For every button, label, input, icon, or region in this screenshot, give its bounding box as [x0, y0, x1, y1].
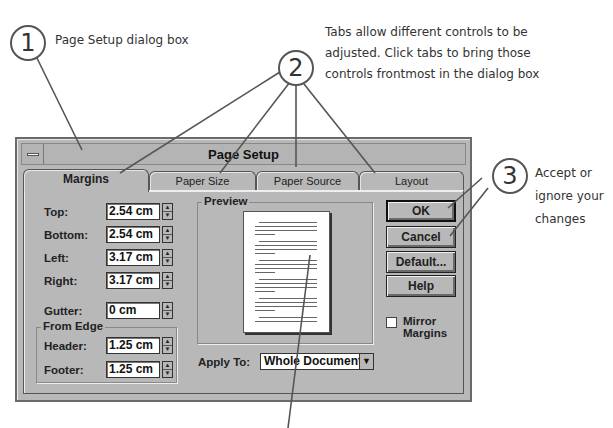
- page-setup-dialog: Page Setup Margins Paper Size Paper Sour…: [15, 137, 472, 402]
- spinner-down-icon[interactable]: ▼: [163, 345, 172, 353]
- callout-1-marker: 1: [10, 25, 46, 61]
- callout-1-text: Page Setup dialog box: [55, 30, 189, 51]
- apply-to-label: Apply To:: [198, 356, 250, 368]
- tab-margins-label: Margins: [63, 172, 109, 186]
- system-menu-button[interactable]: [22, 144, 44, 164]
- callout-2-marker: 2: [278, 50, 314, 86]
- from-edge-label: From Edge: [41, 320, 105, 332]
- dialog-title: Page Setup: [22, 147, 465, 162]
- tab-paper-size[interactable]: Paper Size: [149, 171, 256, 191]
- spinner-down-icon[interactable]: ▼: [163, 310, 172, 318]
- callout-2-number: 2: [288, 54, 303, 82]
- spinner-down-icon[interactable]: ▼: [163, 280, 172, 288]
- bottom-margin-input[interactable]: 2.54 cm: [106, 226, 160, 243]
- default-button[interactable]: Default...: [386, 251, 456, 273]
- spinner-up-icon[interactable]: ▲: [163, 338, 172, 345]
- gutter-input[interactable]: 0 cm: [106, 302, 160, 319]
- spinner-up-icon[interactable]: ▲: [163, 303, 172, 310]
- gutter-spinner[interactable]: ▲ ▼: [162, 302, 173, 319]
- right-margin-input[interactable]: 3.17 cm: [106, 272, 160, 289]
- tab-paper-source[interactable]: Paper Source: [256, 171, 359, 191]
- tab-margins[interactable]: Margins: [23, 169, 149, 192]
- spinner-down-icon[interactable]: ▼: [163, 369, 172, 377]
- apply-to-value: Whole Document: [264, 354, 362, 368]
- cancel-button[interactable]: Cancel: [386, 226, 456, 248]
- callout-3-marker: 3: [492, 158, 528, 194]
- tab-layout-label: Layout: [395, 175, 428, 187]
- right-margin-spinner[interactable]: ▲ ▼: [162, 272, 173, 289]
- callout-3-line-2: ignore your: [535, 185, 604, 208]
- footer-input[interactable]: 1.25 cm: [106, 361, 160, 378]
- bottom-margin-spinner[interactable]: ▲ ▼: [162, 226, 173, 243]
- apply-to-dropdown[interactable]: Whole Document ▼: [260, 353, 374, 370]
- help-button[interactable]: Help: [386, 275, 456, 297]
- bottom-label: Bottom:: [44, 229, 88, 241]
- mirror-margins-label-line-2: Margins: [403, 327, 447, 339]
- callout-2-text: Tabs allow different controls to be adju…: [325, 22, 539, 85]
- callout-2-line-2: adjusted. Click tabs to bring those: [325, 43, 539, 64]
- ok-button[interactable]: OK: [386, 200, 456, 222]
- tab-strip: Margins Paper Size Paper Source Layout: [23, 169, 464, 191]
- mirror-margins-label[interactable]: Mirror Margins: [403, 315, 447, 339]
- callout-1-number: 1: [20, 29, 35, 57]
- spinner-up-icon[interactable]: ▲: [163, 273, 172, 280]
- spinner-up-icon[interactable]: ▲: [163, 204, 172, 211]
- mirror-margins-checkbox[interactable]: [386, 317, 397, 328]
- left-margin-spinner[interactable]: ▲ ▼: [162, 249, 173, 266]
- top-label: Top:: [44, 206, 68, 218]
- top-margin-spinner[interactable]: ▲ ▼: [162, 203, 173, 220]
- spinner-down-icon[interactable]: ▼: [163, 234, 172, 242]
- left-margin-input[interactable]: 3.17 cm: [106, 249, 160, 266]
- spinner-up-icon[interactable]: ▲: [163, 227, 172, 234]
- left-label: Left:: [44, 252, 69, 264]
- callout-3-number: 3: [502, 162, 517, 190]
- callout-3-text: Accept or ignore your changes: [535, 162, 604, 231]
- tab-paper-size-label: Paper Size: [176, 175, 230, 187]
- mirror-margins-label-line-1: Mirror: [403, 315, 447, 327]
- callout-2-line-1: Tabs allow different controls to be: [325, 22, 539, 43]
- callout-3-line-1: Accept or: [535, 162, 604, 185]
- page-preview-thumbnail: [243, 211, 330, 333]
- spinner-down-icon[interactable]: ▼: [163, 257, 172, 265]
- preview-label: Preview: [202, 195, 249, 207]
- gutter-label: Gutter:: [44, 305, 82, 317]
- tab-layout[interactable]: Layout: [359, 171, 464, 191]
- dropdown-arrow-icon[interactable]: ▼: [359, 354, 373, 369]
- header-input[interactable]: 1.25 cm: [106, 337, 160, 354]
- callout-2-line-3: controls frontmost in the dialog box: [325, 64, 539, 85]
- title-bar[interactable]: Page Setup: [21, 143, 466, 165]
- preview-group: Preview: [197, 202, 373, 344]
- minus-icon: [27, 153, 39, 156]
- spinner-up-icon[interactable]: ▲: [163, 362, 172, 369]
- right-label: Right:: [44, 275, 77, 287]
- header-label: Header:: [44, 340, 87, 352]
- tab-paper-source-label: Paper Source: [274, 175, 341, 187]
- footer-label: Footer:: [44, 364, 84, 376]
- footer-spinner[interactable]: ▲ ▼: [162, 361, 173, 378]
- spinner-up-icon[interactable]: ▲: [163, 250, 172, 257]
- header-spinner[interactable]: ▲ ▼: [162, 337, 173, 354]
- callout-3-line-3: changes: [535, 208, 604, 231]
- top-margin-input[interactable]: 2.54 cm: [106, 203, 160, 220]
- spinner-down-icon[interactable]: ▼: [163, 211, 172, 219]
